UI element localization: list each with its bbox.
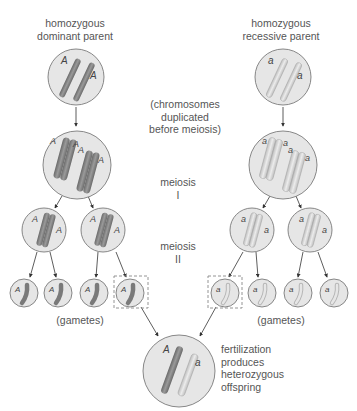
allele-label: A [89, 70, 97, 81]
svg-text:A: A [120, 285, 126, 294]
svg-text:a: a [305, 153, 310, 163]
recessive-meiosis1-cells: a a a a [230, 208, 332, 252]
recessive-duplicated-cell: a a a a [249, 131, 317, 199]
recessive-gametes: a a a a [208, 276, 348, 308]
allele-label: A [60, 55, 68, 66]
svg-text:A: A [48, 285, 54, 294]
meiosis-diagram: A A a a A A A A a a [0, 0, 357, 411]
svg-text:a: a [253, 285, 258, 294]
svg-text:a: a [288, 145, 293, 155]
svg-text:a: a [216, 285, 221, 294]
svg-text:a: a [241, 214, 246, 224]
allele-label: a [297, 70, 303, 81]
svg-text:a: a [299, 214, 304, 224]
svg-text:a: a [289, 285, 294, 294]
dominant-parent-cell: A A [48, 49, 104, 105]
svg-text:a: a [264, 225, 269, 235]
svg-text:a: a [262, 136, 267, 146]
svg-text:A: A [14, 285, 20, 294]
svg-text:a: a [195, 357, 201, 368]
dominant-duplicated-cell: A A A A [43, 131, 111, 199]
svg-text:a: a [325, 285, 330, 294]
svg-text:A: A [31, 214, 38, 224]
svg-text:A: A [162, 344, 170, 355]
svg-text:A: A [77, 145, 84, 155]
heterozygous-offspring-cell: A a [143, 335, 215, 407]
svg-text:a: a [322, 225, 327, 235]
svg-text:A: A [113, 225, 120, 235]
dominant-gametes: A A A A [10, 276, 148, 308]
svg-text:A: A [49, 136, 56, 146]
recessive-parent-cell: a a [255, 49, 311, 105]
svg-text:A: A [89, 214, 96, 224]
dominant-meiosis1-cells: A A A A [22, 208, 125, 252]
svg-text:A: A [55, 225, 62, 235]
allele-label: a [268, 55, 274, 66]
svg-text:A: A [97, 155, 104, 165]
svg-text:A: A [84, 285, 90, 294]
